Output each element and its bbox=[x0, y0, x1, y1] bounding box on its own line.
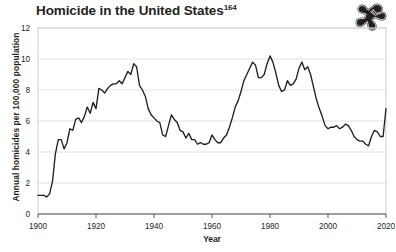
plot-area bbox=[0, 0, 396, 252]
x-tickmarks bbox=[38, 214, 386, 218]
gridlines bbox=[38, 28, 386, 183]
homicide-rate-line bbox=[38, 56, 386, 197]
chart-figure: Homicide in the United States164 Annual … bbox=[0, 0, 396, 252]
